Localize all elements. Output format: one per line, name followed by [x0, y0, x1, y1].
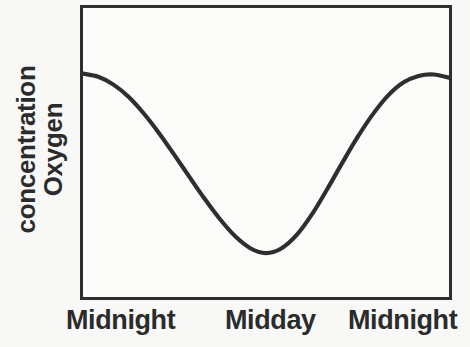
x-tick-label-midnight-start: Midnight: [66, 305, 175, 336]
oxygen-concentration-curve-svg: [83, 8, 449, 297]
y-axis-label-line-1: Oxygen: [40, 103, 67, 197]
plot-area: [80, 5, 452, 300]
x-tick-label-midnight-end: Midnight: [348, 305, 457, 336]
x-tick-label-midday: Midday: [225, 305, 316, 336]
y-axis-label: Oxygen concentration: [0, 0, 80, 300]
x-axis-labels: Midnight Midday Midnight: [60, 305, 470, 345]
oxygen-concentration-curve: [83, 74, 449, 253]
y-axis-label-line-2: concentration: [13, 66, 40, 234]
chart-screenshot: Oxygen concentration Midnight Midday Mid…: [0, 0, 470, 347]
y-axis-label-text: Oxygen concentration: [13, 66, 66, 234]
